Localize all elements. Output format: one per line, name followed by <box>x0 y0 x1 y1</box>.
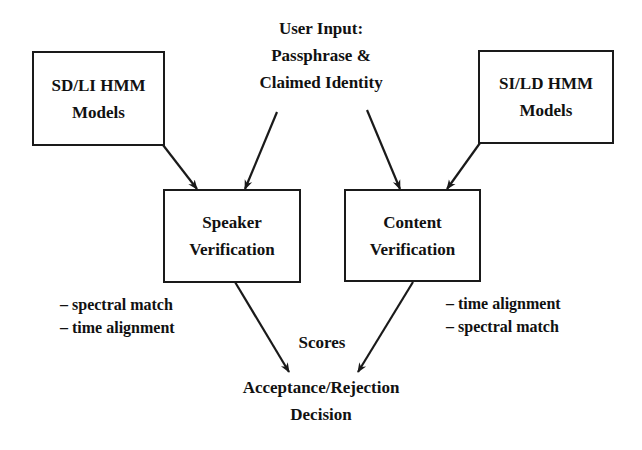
arrow-input-to-speaker <box>245 112 277 189</box>
content-note-2: – spectral match <box>446 315 561 338</box>
si-ld-hmm-models-box: SI/LD HMM Models <box>478 50 614 144</box>
arrow-sild-to-content <box>447 143 480 189</box>
speaker-note-1: – spectral match <box>60 293 175 316</box>
arrow-input-to-content <box>367 110 400 189</box>
user-input-line-1: User Input: <box>221 15 421 42</box>
decision-line-2: Decision <box>211 401 431 428</box>
content-notes: – time alignment – spectral match <box>446 292 561 338</box>
si-ld-line-2: Models <box>520 97 573 124</box>
speaker-note-2: – time alignment <box>60 316 175 339</box>
content-note-1: – time alignment <box>446 292 561 315</box>
speaker-notes: – spectral match – time alignment <box>60 293 175 339</box>
content-verification-box: Content Verification <box>344 189 481 282</box>
speaker-line-2: Verification <box>189 236 274 263</box>
user-input-line-3: Claimed Identity <box>221 69 421 96</box>
arrow-content-to-decision <box>358 282 413 372</box>
content-line-1: Content <box>383 209 442 236</box>
user-input-line-2: Passphrase & <box>221 42 421 69</box>
content-line-2: Verification <box>370 236 455 263</box>
sd-li-line-2: Models <box>72 99 125 126</box>
decision-line-1: Acceptance/Rejection <box>211 374 431 401</box>
user-input-label: User Input: Passphrase & Claimed Identit… <box>221 15 421 96</box>
decision-label: Acceptance/Rejection Decision <box>211 374 431 428</box>
sd-li-line-1: SD/LI HMM <box>52 72 146 99</box>
scores-label: Scores <box>272 329 372 356</box>
si-ld-line-1: SI/LD HMM <box>499 70 593 97</box>
sd-li-hmm-models-box: SD/LI HMM Models <box>32 51 165 146</box>
arrow-sdli-to-speaker <box>163 145 197 189</box>
speaker-line-1: Speaker <box>202 209 262 236</box>
speaker-verification-box: Speaker Verification <box>163 189 301 283</box>
arrow-speaker-to-decision <box>235 282 289 372</box>
